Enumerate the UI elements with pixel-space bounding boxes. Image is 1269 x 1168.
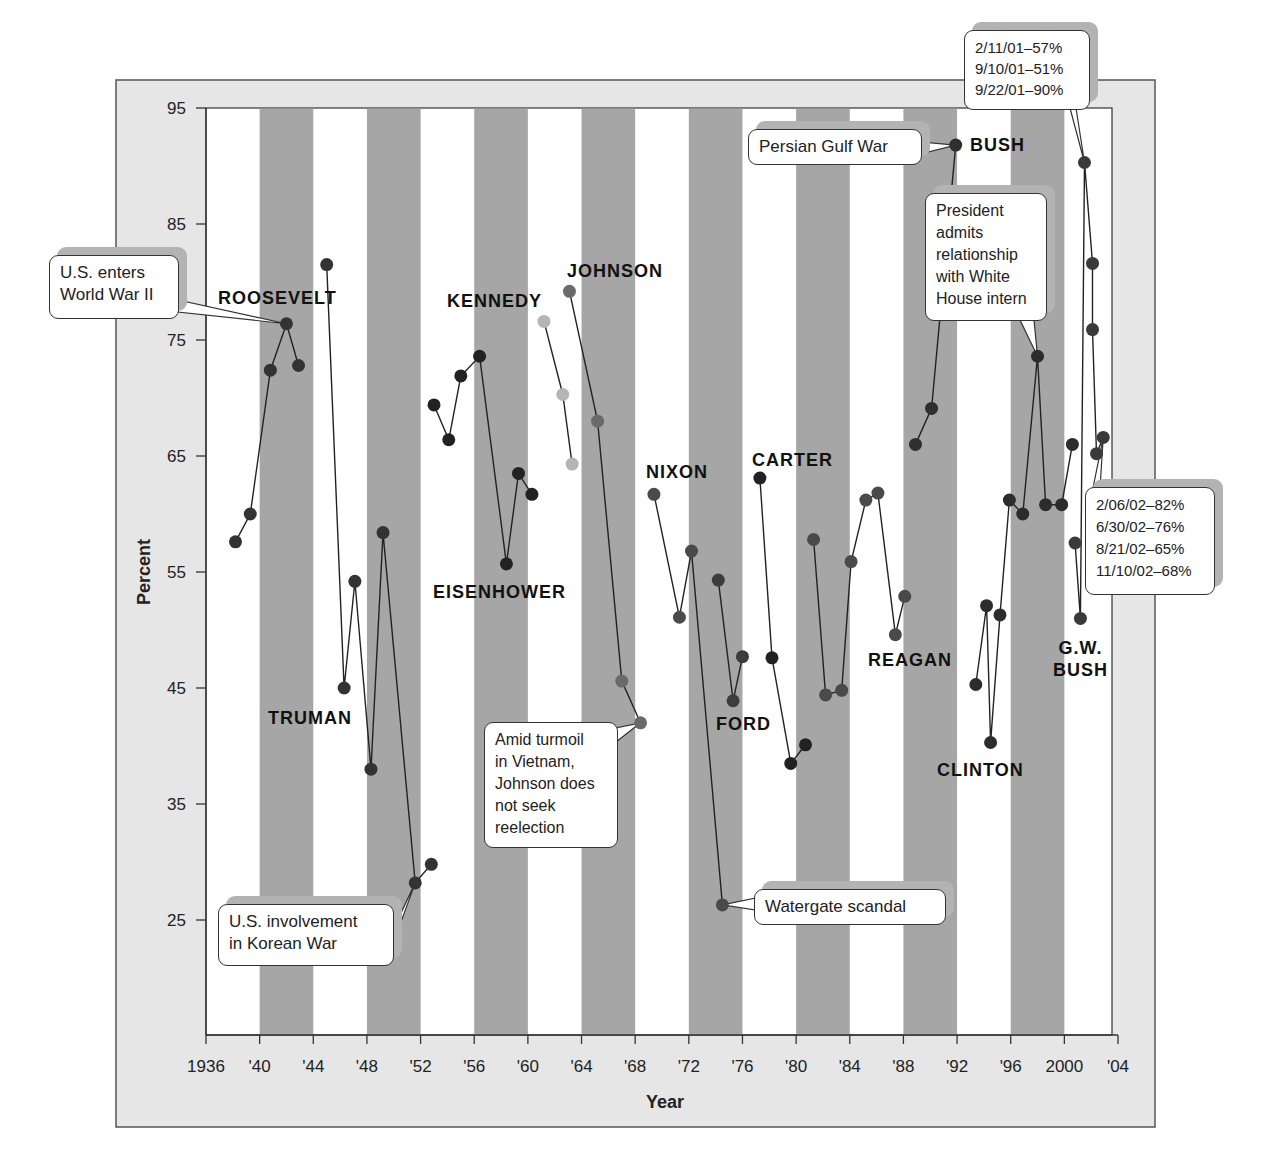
data-point — [1090, 447, 1103, 460]
data-point — [716, 898, 729, 911]
data-point — [364, 763, 377, 776]
label-kennedy: KENNEDY — [447, 290, 542, 312]
data-point — [1086, 323, 1099, 336]
data-point — [229, 535, 242, 548]
term-band — [367, 109, 421, 1035]
callout-gulf: Persian Gulf War — [748, 129, 922, 165]
y-tick-label: 55 — [167, 563, 186, 582]
callout-intern: President admits relationship with White… — [925, 193, 1047, 321]
data-point — [473, 350, 486, 363]
x-tick-label: '68 — [624, 1057, 646, 1076]
approval-chart: 1936'40'44'48'52'56'60'64'68'72'76'80'84… — [0, 0, 1269, 1168]
data-point — [673, 611, 686, 624]
x-tick-label: 1936 — [187, 1057, 225, 1076]
data-point — [1031, 350, 1044, 363]
data-point — [949, 139, 962, 152]
callout-vietnam: Amid turmoil in Vietnam, Johnson does no… — [484, 722, 618, 848]
y-tick-label: 65 — [167, 447, 186, 466]
data-point — [409, 876, 422, 889]
label-bush: BUSH — [970, 134, 1025, 156]
data-point — [925, 402, 938, 415]
data-point — [566, 458, 579, 471]
data-point — [685, 545, 698, 558]
data-point — [280, 317, 293, 330]
data-point — [377, 526, 390, 539]
x-tick-label: '64 — [570, 1057, 592, 1076]
label-eisenhower: EISENHOWER — [433, 581, 566, 603]
data-point — [871, 487, 884, 500]
data-point — [1078, 156, 1091, 169]
x-tick-label: '48 — [356, 1057, 378, 1076]
x-tick-label: '60 — [517, 1057, 539, 1076]
data-point — [784, 757, 797, 770]
term-band — [474, 109, 528, 1035]
x-tick-label: '76 — [731, 1057, 753, 1076]
data-point — [727, 694, 740, 707]
data-point — [1039, 498, 1052, 511]
data-point — [753, 472, 766, 485]
data-point — [1003, 494, 1016, 507]
y-tick-label: 35 — [167, 795, 186, 814]
data-point — [969, 678, 982, 691]
term-band — [582, 109, 636, 1035]
data-point — [454, 369, 467, 382]
data-point — [500, 557, 513, 570]
x-tick-label: '88 — [892, 1057, 914, 1076]
data-point — [338, 682, 351, 695]
y-tick-label: 75 — [167, 331, 186, 350]
label-truman: TRUMAN — [268, 707, 352, 729]
callout-korea: U.S. involvement in Korean War — [218, 904, 394, 966]
data-point — [442, 433, 455, 446]
data-point — [859, 494, 872, 507]
data-point — [889, 628, 902, 641]
data-point — [736, 650, 749, 663]
y-tick-label: 25 — [167, 911, 186, 930]
data-point — [591, 415, 604, 428]
data-point — [819, 688, 832, 701]
data-point — [428, 398, 441, 411]
label-nixon: NIXON — [646, 461, 708, 483]
x-tick-label: '80 — [785, 1057, 807, 1076]
data-point — [537, 315, 550, 328]
y-tick-label: 85 — [167, 215, 186, 234]
data-point — [563, 285, 576, 298]
data-point — [1055, 498, 1068, 511]
data-point — [980, 599, 993, 612]
x-tick-label: '52 — [410, 1057, 432, 1076]
data-point — [1066, 438, 1079, 451]
data-point — [615, 675, 628, 688]
data-point — [835, 684, 848, 697]
label-gwbush: G.W. BUSH — [1053, 637, 1108, 681]
x-tick-label: '56 — [463, 1057, 485, 1076]
x-tick-label: '96 — [1000, 1057, 1022, 1076]
label-ford: FORD — [716, 713, 771, 735]
callout-bush-2002: 2/06/02–82% 6/30/02–76% 8/21/02–65% 11/1… — [1085, 487, 1215, 595]
data-point — [512, 467, 525, 480]
data-point — [647, 488, 660, 501]
y-axis-label: Percent — [134, 539, 154, 605]
data-point — [292, 359, 305, 372]
x-tick-label: 2000 — [1045, 1057, 1083, 1076]
x-tick-label: '04 — [1107, 1057, 1129, 1076]
x-axis-label: Year — [646, 1092, 684, 1112]
data-point — [1074, 612, 1087, 625]
x-tick-label: '84 — [839, 1057, 861, 1076]
y-tick-label: 45 — [167, 679, 186, 698]
data-point — [807, 533, 820, 546]
data-point — [993, 608, 1006, 621]
data-point — [1086, 257, 1099, 270]
data-point — [845, 555, 858, 568]
data-point — [425, 858, 438, 871]
data-point — [320, 258, 333, 271]
x-tick-label: '72 — [678, 1057, 700, 1076]
data-point — [1097, 431, 1110, 444]
data-point — [712, 574, 725, 587]
data-point — [556, 388, 569, 401]
data-point — [264, 364, 277, 377]
data-point — [765, 651, 778, 664]
callout-bush-2001: 2/11/01–57% 9/10/01–51% 9/22/01–90% — [964, 30, 1090, 110]
data-point — [1069, 537, 1082, 550]
x-tick-label: '92 — [946, 1057, 968, 1076]
label-roosevelt: ROOSEVELT — [218, 287, 337, 309]
term-band — [260, 109, 314, 1035]
